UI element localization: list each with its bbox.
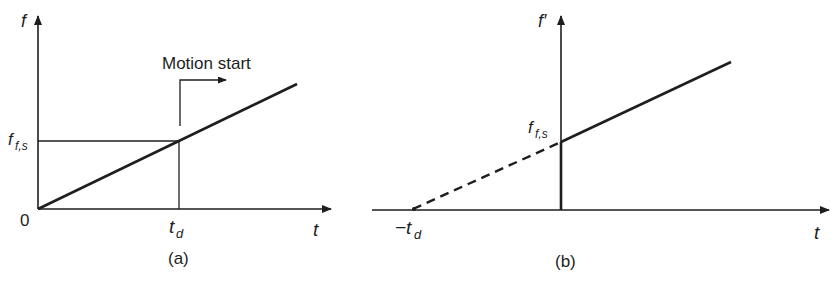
panel-b-delay-time-label-main: −t bbox=[395, 217, 412, 238]
panel-a-static-force-label-main: f bbox=[8, 130, 15, 149]
panel-a: Motion start f t 0 f f,s t d (a) bbox=[8, 11, 331, 268]
panel-a-force-ramp-line bbox=[38, 84, 297, 209]
motion-start-arrow-icon bbox=[180, 80, 226, 126]
panel-b-static-force-label-main: f bbox=[528, 118, 535, 137]
panel-a-caption: (a) bbox=[168, 249, 189, 268]
panel-a-static-force-label-sub: f,s bbox=[15, 139, 28, 153]
figure: Motion start f t 0 f f,s t d (a) f′ t bbox=[0, 0, 839, 282]
panel-a-y-axis-label: f bbox=[21, 11, 28, 31]
panel-a-delay-time-label-main: t bbox=[169, 216, 175, 237]
panel-a-delay-time-label: t d bbox=[169, 216, 184, 241]
panel-a-x-axis-label: t bbox=[313, 219, 319, 240]
panel-b-caption: (b) bbox=[555, 252, 576, 271]
panel-b-extrapolated-ramp-dashed-line bbox=[413, 142, 561, 209]
panel-a-static-force-label: f f,s bbox=[8, 130, 28, 153]
panel-b-force-ramp-line bbox=[561, 62, 731, 142]
panel-b-static-force-label: f f,s bbox=[528, 118, 548, 141]
motion-start-label: Motion start bbox=[162, 54, 251, 73]
panel-b-delay-time-label-sub: d bbox=[414, 227, 422, 242]
panel-b-y-axis-label: f′ bbox=[538, 11, 547, 31]
panel-b-x-axis-label: t bbox=[814, 222, 820, 243]
panel-b-delay-time-label: −t d bbox=[395, 217, 422, 242]
panel-b: f′ t f f,s −t d (b) bbox=[372, 11, 829, 271]
panel-a-delay-time-label-sub: d bbox=[176, 226, 184, 241]
panel-a-origin-label: 0 bbox=[20, 211, 29, 230]
panel-b-static-force-label-sub: f,s bbox=[535, 127, 548, 141]
panel-b-delay-point bbox=[412, 207, 416, 211]
